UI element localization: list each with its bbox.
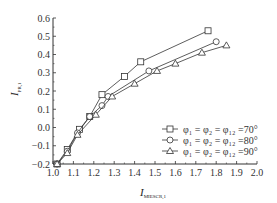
circle-marker — [167, 137, 173, 143]
x-tick-label: 1.8 — [210, 167, 223, 178]
y-tick-label: 0.0 — [38, 122, 51, 133]
triangle-marker — [167, 148, 174, 154]
circle-marker — [213, 39, 219, 45]
x-axis-label: IMIESCR,1 — [139, 186, 167, 200]
triangle-marker — [172, 60, 179, 66]
legend-item: φ₁ = φ₂ = φ₁₂ =80° — [162, 135, 258, 146]
x-tick-label: 1.1 — [67, 167, 80, 178]
square-marker — [99, 92, 105, 98]
y-tick-label: −0.1 — [32, 140, 50, 151]
y-tick-label: 0.1 — [38, 104, 51, 115]
legend: φ₁ = φ₂ = φ₁₂ =70°φ₁ = φ₂ = φ₁₂ =80°φ₁ =… — [162, 124, 258, 157]
x-tick-label: 1.9 — [230, 167, 243, 178]
y-tick-label: 0.5 — [38, 31, 51, 42]
legend-label: φ₁ = φ₂ = φ₁₂ =70° — [183, 124, 258, 135]
y-axis-label: IPR,1 — [8, 82, 23, 97]
legend-label: φ₁ = φ₂ = φ₁₂ =80° — [183, 135, 258, 146]
y-tick-label: −0.2 — [32, 159, 50, 170]
legend-label: φ₁ = φ₂ = φ₁₂ =90° — [183, 146, 258, 157]
y-tick-label: 0.4 — [38, 49, 51, 60]
square-marker — [121, 73, 127, 79]
y-tick-label: 0.3 — [38, 67, 51, 78]
triangle-marker — [223, 42, 230, 48]
x-tick-label: 1.2 — [88, 167, 101, 178]
line-chart: 1.01.11.21.31.41.51.61.71.81.92.0−0.2−0.… — [0, 0, 277, 203]
square-marker — [205, 28, 211, 34]
square-marker — [167, 126, 173, 132]
square-marker — [138, 59, 144, 65]
circle-marker — [146, 68, 152, 74]
x-tick-label: 1.7 — [190, 167, 203, 178]
legend-item: φ₁ = φ₂ = φ₁₂ =90° — [162, 146, 258, 157]
x-tick-label: 1.4 — [128, 167, 141, 178]
x-tick-label: 2.0 — [251, 167, 264, 178]
y-tick-label: 0.2 — [38, 86, 51, 97]
x-tick-label: 1.6 — [169, 167, 182, 178]
x-tick-label: 1.3 — [108, 167, 121, 178]
legend-item: φ₁ = φ₂ = φ₁₂ =70° — [162, 124, 258, 135]
x-tick-label: 1.5 — [149, 167, 162, 178]
y-tick-label: 0.6 — [38, 13, 51, 24]
